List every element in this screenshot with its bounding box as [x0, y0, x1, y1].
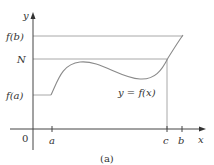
- x-axis-label: x: [198, 134, 204, 145]
- intermediate-value-diagram: y x 0 f(b) N f(a) a c b y = f(x) (a): [0, 0, 214, 165]
- curve-label: y = f(x): [117, 87, 156, 98]
- b-tick-label: b: [178, 135, 184, 146]
- a-tick-label: a: [49, 135, 55, 146]
- y-axis-label: y: [22, 10, 29, 21]
- c-tick-label: c: [163, 135, 169, 146]
- fa-label: f(a): [5, 90, 24, 101]
- origin-label: 0: [22, 133, 28, 144]
- x-axis-arrow-icon: [199, 127, 206, 132]
- figure-caption: (a): [100, 153, 114, 164]
- y-axis-arrow-icon: [31, 12, 36, 19]
- fb-label: f(b): [5, 31, 24, 42]
- n-label: N: [16, 54, 27, 65]
- function-curve: [51, 35, 183, 95]
